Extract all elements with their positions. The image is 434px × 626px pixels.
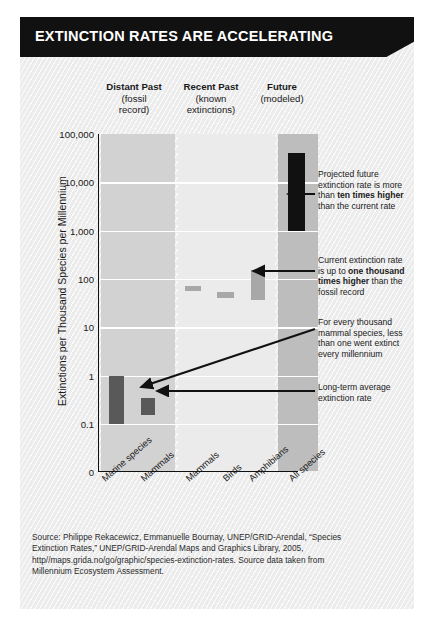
y-tick-1: 1 [28,370,94,381]
y-tick-10000: 10,000 [28,177,94,188]
column-header-distant-past: Distant Past (fossil record) [95,81,173,116]
column-header-sub1: (known [172,93,250,105]
anno-line: than the current rate [318,201,395,211]
anno-emphasis: ten times higher [337,190,403,200]
anno-line: fossil record [318,287,364,297]
bar-marine-species-distant-past [109,376,124,424]
bar-mammals-distant-past [141,398,155,415]
gridline-10 [101,327,318,329]
gridline-100 [101,279,318,281]
plot-area [98,134,298,472]
y-tick-10: 10 [28,322,94,333]
annotation-mammal-rate: For every thousand mammal species, less … [318,317,430,359]
annotation-longterm-average: Long-term average extinction rate [318,382,430,403]
column-header-title: Distant Past [95,81,173,93]
page-title: EXTINCTION RATES ARE ACCELERATING [35,28,333,44]
source-line-2: Extinction Rates,” UNEP/GRID-Arendal Map… [32,543,406,554]
source-line-4: Millennium Ecosystem Assessment. [32,566,406,577]
annotation-current-rate: Current extinction rate is up to one tho… [318,255,430,297]
x-axis-labels: Marine species Mammals Mammals Birds Amp… [98,472,328,532]
column-header-title: Future [248,81,316,93]
bar-all-species-future [288,153,305,231]
annotation-future-rate: Projected future extinction rate is more… [318,169,430,211]
anno-emphasis: times higher [318,276,369,286]
title-banner: EXTINCTION RATES ARE ACCELERATING [20,17,414,57]
column-header-sub2: extinctions) [172,104,250,116]
y-tick-0: 0 [28,467,94,478]
anno-line: every millennium [318,349,382,359]
source-note: Source: Philippe Rekacewicz, Emmanuelle … [32,532,406,578]
anno-line: For every thousand [318,317,392,327]
band-recent-past [178,134,275,471]
column-header-sub2: record) [95,104,173,116]
anno-line: is up to [318,266,348,276]
anno-line: than the [369,276,402,286]
anno-line: than one went extinct [318,338,399,348]
anno-line: Long-term average [318,382,391,392]
source-line-3: http//maps.grida.no/go/graphic/species-e… [32,555,406,566]
anno-line: extinction rate is more [318,180,402,190]
anno-line: Current extinction rate [318,255,403,265]
column-header-sub1: (modeled) [248,93,316,105]
source-line-1: Source: Philippe Rekacewicz, Emmanuelle … [32,532,406,543]
y-tick-100: 100 [28,273,94,284]
bar-amphibians-recent-past [251,270,265,300]
gridline-0.1 [101,424,318,426]
gridline-1000 [101,231,318,233]
y-axis-ticks: 100,000 10,000 1,000 100 10 1 0.1 0 [26,134,94,472]
y-tick-0.1: 0.1 [28,418,94,429]
gridline-10000 [101,182,318,184]
column-header-title: Recent Past [172,81,250,93]
anno-line: Projected future [318,169,379,179]
bar-birds-recent-past [217,292,234,298]
column-header-recent-past: Recent Past (known extinctions) [172,81,250,116]
bar-mammals-recent-past [185,286,201,291]
gridline-1 [101,376,318,378]
anno-emphasis: one thousand [348,266,404,276]
anno-line: than [318,190,337,200]
column-header-sub1: (fossil [95,93,173,105]
column-header-future: Future (modeled) [248,81,316,104]
y-tick-100000: 100,000 [28,129,94,140]
anno-line: mammal species, less [318,328,403,338]
anno-line: extinction rate [318,393,372,403]
y-tick-1000: 1,000 [28,225,94,236]
